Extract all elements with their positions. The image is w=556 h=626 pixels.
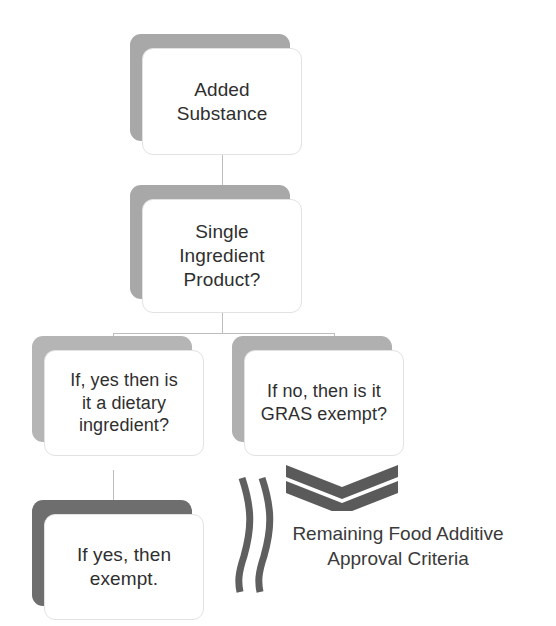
node-label: Added Substance <box>169 78 276 126</box>
node-gras-exempt[interactable]: If no, then is it GRAS exempt? <box>232 336 392 442</box>
connector-branch-horizontal <box>113 333 335 334</box>
node-card[interactable]: Single Ingredient Product? <box>142 199 302 313</box>
node-label: If no, then is it GRAS exempt? <box>253 380 395 425</box>
caption-remaining-criteria: Remaining Food Additive Approval Criteri… <box>272 522 524 571</box>
node-card[interactable]: If no, then is it GRAS exempt? <box>244 350 404 456</box>
node-label: Single Ingredient Product? <box>171 220 273 292</box>
chevron-down-icon <box>284 463 400 511</box>
double-chevron-down <box>284 463 400 511</box>
node-label: If, yes then is it a dietary ingredient? <box>62 369 186 437</box>
node-card[interactable]: Added Substance <box>142 48 302 155</box>
node-label: If yes, then exempt. <box>69 543 179 591</box>
flowchart-canvas: Added Substance Single Ingredient Produc… <box>0 0 556 626</box>
node-single-ingredient-product[interactable]: Single Ingredient Product? <box>130 185 290 299</box>
node-added-substance[interactable]: Added Substance <box>130 34 290 141</box>
node-card[interactable]: If, yes then is it a dietary ingredient? <box>44 350 204 456</box>
connector-single-stem <box>222 313 223 333</box>
node-dietary-ingredient[interactable]: If, yes then is it a dietary ingredient? <box>32 336 192 442</box>
node-card[interactable]: If yes, then exempt. <box>44 514 204 620</box>
node-exempt[interactable]: If yes, then exempt. <box>32 500 192 606</box>
